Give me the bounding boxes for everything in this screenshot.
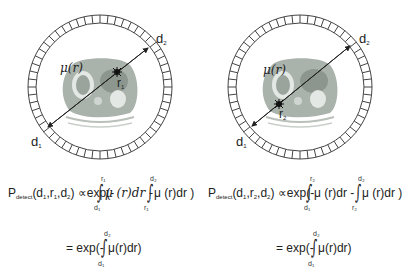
label-d2-left: d2 — [156, 32, 167, 46]
label-d1-right: d1 — [236, 135, 247, 149]
integral-sign: ∫ — [311, 237, 317, 257]
integral-lower-limit: r₁ — [144, 204, 149, 211]
equation-term2-left: μ (r)dr ) — [154, 187, 194, 199]
label-mu-right: μ(r) — [263, 64, 286, 76]
integral-upper-limit: r₁ — [101, 175, 106, 182]
integral-upper-limit: r₂ — [310, 175, 315, 182]
equation-simplified-term-right: μ(r)dr) — [318, 242, 352, 254]
equation-term1-right: μ (r)dr - — [314, 187, 354, 199]
label-d2-right: d2 — [359, 32, 370, 46]
label-mu-left: μ(r) — [60, 62, 83, 74]
integral-sign: ∫ — [147, 182, 153, 202]
label-r2: r2 — [279, 108, 286, 121]
equation-term2-right: μ (r)dr ) — [362, 187, 402, 199]
label-r1: r1 — [117, 77, 124, 90]
integral-sign: ∫ — [101, 237, 107, 257]
integral-upper-limit: d₂ — [358, 175, 365, 182]
integral-lower-limit: d₁ — [94, 204, 100, 211]
equation-detect-right: Pdetect(d1,r2,d2) ∝exp(- — [208, 187, 314, 200]
integral-lower-limit: d₁ — [98, 260, 104, 267]
integral-sign: ∫ — [306, 182, 312, 202]
equation-term1-left: μ (r)dr - — [105, 187, 153, 199]
label-d1-left: d1 — [31, 135, 42, 149]
equation-simplified-term-left: μ(r)dr) — [108, 242, 142, 254]
integral-sign: ∫ — [97, 182, 103, 202]
integral-sign: ∫ — [355, 182, 361, 202]
integral-upper-limit: d₂ — [104, 230, 111, 237]
equation-simplified-right: = exp(- — [276, 242, 314, 254]
integral-upper-limit: d₂ — [150, 175, 157, 182]
detector-ring-left — [28, 15, 172, 159]
equation-simplified-left: = exp(- — [66, 242, 104, 254]
integral-lower-limit: d₁ — [308, 260, 314, 267]
integral-lower-limit: r₂ — [352, 204, 357, 211]
integral-upper-limit: d₂ — [313, 230, 320, 237]
integral-lower-limit: d₁ — [304, 204, 310, 211]
